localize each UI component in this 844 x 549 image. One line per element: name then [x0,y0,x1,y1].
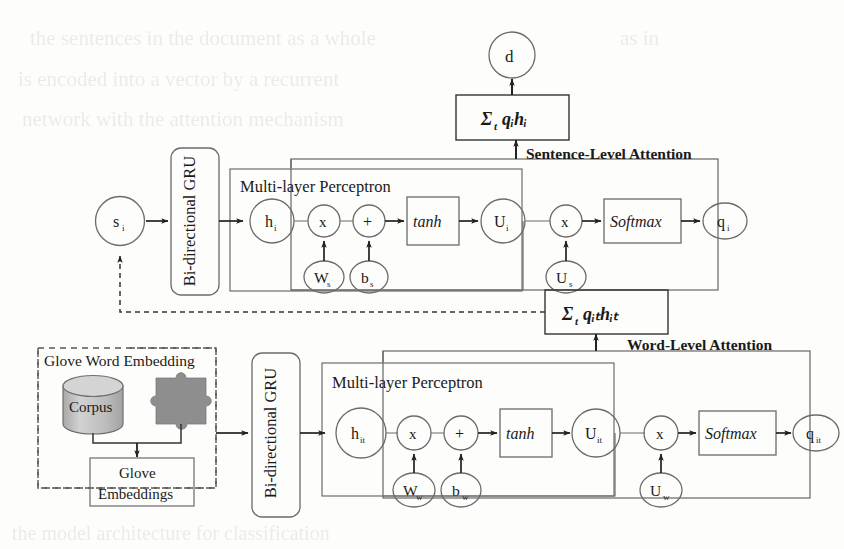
puzzle-piece-icon [151,373,212,430]
node-s-i-label: s [113,213,119,230]
svg-text:Σ: Σ [480,109,492,129]
node-U-s-sub: s [569,279,573,289]
node-h-i-sub: i [274,223,277,233]
corpus-label: Corpus [69,399,113,415]
node-U-w-sub: w [663,492,670,502]
word-gru-label: Bi-directional GRU [261,368,280,499]
node-word-multiply-label: x [409,426,417,442]
node-U-w-label: U [650,482,661,499]
sentence-attention-label: Sentence-Level Attention [526,145,692,162]
node-b-w [441,473,481,507]
glove-embeddings-line2: Embeddings [98,486,173,502]
node-W-s-sub: s [327,279,331,289]
sentence-sum-formula: Σ t qᵢhᵢ [480,109,527,132]
svg-text:is encoded into a vector by a: is encoded into a vector by a recurrent [18,67,339,91]
node-W-w-sub: w [416,492,423,502]
word-softmax-label: Softmax [705,425,757,443]
node-word-multiply-2-label: x [656,426,664,442]
word-sum-formula: Σ t qᵢₜhᵢₜ [561,304,619,327]
glove-embeddings-line1: Glove [119,465,156,481]
node-s-i [96,197,145,246]
node-q-it-label: q [806,425,814,443]
word-attention-label: Word-Level Attention [627,336,772,353]
svg-text:the sentences in the document: the sentences in the document as a whole [30,26,376,50]
word-mlp-label: Multi-layer Perceptron [332,373,483,392]
node-word-add-label: + [455,425,464,442]
word-mlp-feedback-path [383,433,615,496]
svg-text:network with the attention mec: network with the attention mechanism [22,107,344,131]
svg-text:Σ: Σ [561,304,573,324]
glove-panel-label: Glove Word Embedding [44,352,195,369]
node-h-it-label: h [351,425,359,442]
node-q-i [703,203,747,239]
svg-text:qᵢₜhᵢₜ: qᵢₜhᵢₜ [583,304,619,324]
node-sentence-multiply-label: x [319,214,327,230]
node-q-it [793,415,839,451]
sentence-gru-label: Bi-directional GRU [180,156,199,287]
node-q-i-label: q [717,213,725,231]
node-U-it-label: U [585,425,597,442]
svg-text:t: t [575,315,579,327]
node-b-s-label: b [361,269,369,286]
node-U-i-sub: i [506,223,509,233]
node-d-output-label: d [505,47,514,66]
sentence-softmax-label: Softmax [610,213,662,231]
node-sentence-add-label: + [363,213,372,230]
node-sentence-multiply-2-label: x [561,214,569,230]
node-U-it-sub: it [597,435,603,445]
node-q-i-sub: i [727,223,730,233]
node-h-i-label: h [265,213,273,230]
svg-text:as in: as in [620,26,660,50]
node-q-it-sub: it [816,435,822,445]
node-b-s-sub: s [370,279,374,289]
node-U-s-label: U [556,269,567,286]
svg-text:the model architecture for cla: the model architecture for classificatio… [12,522,330,544]
node-h-it-sub: it [360,435,366,445]
node-U-i-label: U [494,213,506,230]
svg-text:t: t [494,120,498,132]
word-tanh-label: tanh [506,425,534,442]
sentence-mlp-label: Multi-layer Perceptron [240,177,391,196]
svg-text:qᵢhᵢ: qᵢhᵢ [502,109,527,129]
node-s-i-sub: i [122,223,125,233]
node-h-it [336,408,386,458]
node-b-w-sub: w [462,492,469,502]
node-b-s [350,261,388,293]
sentence-tanh-label: tanh [413,213,441,230]
diagram-canvas: the sentences in the document as a whole… [0,0,844,549]
